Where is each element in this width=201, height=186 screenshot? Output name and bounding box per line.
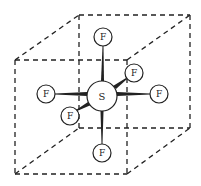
fluorine-label-front-left: F: [67, 111, 73, 121]
cube-depth-edge-bottom-right: [127, 128, 190, 174]
bond-top: [101, 46, 104, 81]
fluorine-label-back-right: F: [131, 68, 137, 78]
sf6-octahedral-diagram: S F F F F F F: [0, 0, 201, 186]
cube-depth-edge-bottom-left: [15, 128, 79, 174]
fluorine-label-right: F: [156, 89, 162, 99]
bond-back-right: [113, 78, 127, 89]
bond-left: [55, 92, 87, 96]
bond-right: [117, 92, 150, 96]
fluorine-label-bottom: F: [99, 148, 105, 158]
cube-depth-edge-top-left: [15, 15, 79, 60]
sulfur-label: S: [99, 91, 106, 102]
cube-depth-edge-top-right: [127, 15, 190, 60]
fluorine-label-top: F: [100, 32, 106, 42]
fluorine-label-left: F: [43, 89, 49, 99]
